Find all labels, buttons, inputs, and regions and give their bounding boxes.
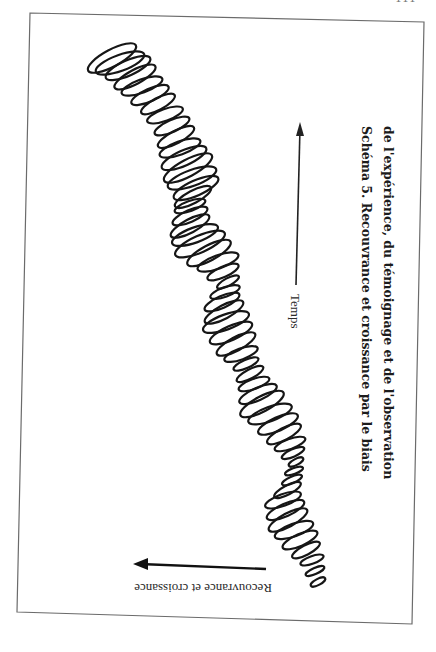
figure-caption-line-2: de l'expérience, du témoignage et de l'o… (381, 126, 396, 479)
figure-caption-line-1: Schéma 5. Recouvrance et croissance par … (359, 126, 374, 472)
time-arrow-icon (296, 122, 304, 285)
growth-arrow-icon (133, 558, 266, 570)
y-axis-label: Recouvrance et croissance (134, 580, 272, 596)
x-axis-label: Temps (287, 294, 303, 328)
